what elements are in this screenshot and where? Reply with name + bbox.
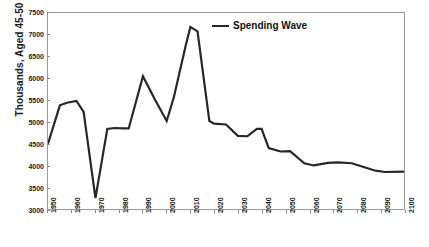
legend-label: Spending Wave — [233, 20, 307, 31]
x-axis-tick-mark — [333, 210, 334, 213]
plot-area — [47, 12, 405, 210]
x-axis-tick-label: 2000 — [169, 197, 176, 213]
x-axis-tick-label: 2040 — [265, 197, 272, 213]
x-axis-tick-label: 1990 — [145, 197, 152, 213]
y-axis-tick-mark — [47, 34, 50, 35]
legend-line-swatch — [212, 25, 229, 27]
spending-wave-line-svg — [48, 13, 404, 209]
y-axis-tick-label: 5500 — [4, 97, 44, 104]
y-axis-tick-label: 4000 — [4, 163, 44, 170]
x-axis-tick-mark — [262, 210, 263, 213]
x-axis-tick-label: 2020 — [217, 197, 224, 213]
x-axis-tick-mark — [405, 210, 406, 213]
x-axis-tick-mark — [381, 210, 382, 213]
legend: Spending Wave — [212, 20, 307, 31]
y-axis-tick-label: 6500 — [4, 53, 44, 60]
x-axis-tick-label: 2100 — [408, 197, 415, 213]
y-axis-tick-mark — [47, 56, 50, 57]
x-axis-tick-mark — [47, 210, 48, 213]
chart-container: Thousands, Aged 45-50 300035004000450050… — [0, 0, 429, 247]
y-axis-tick-label: 5000 — [4, 119, 44, 126]
y-axis-tick-label: 3500 — [4, 185, 44, 192]
x-axis-tick-label: 2060 — [313, 197, 320, 213]
y-axis-tick-label: 7500 — [4, 9, 44, 16]
x-axis-tick-mark — [95, 210, 96, 213]
y-axis-tick-label: 3000 — [4, 207, 44, 214]
spending-wave-line — [48, 27, 404, 198]
x-axis-tick-label: 2050 — [289, 197, 296, 213]
x-axis-tick-label: 1970 — [98, 197, 105, 213]
x-axis-tick-mark — [166, 210, 167, 213]
x-axis-tick-label: 2080 — [360, 197, 367, 213]
x-axis-tick-label: 1950 — [50, 197, 57, 213]
y-axis-tick-mark — [47, 100, 50, 101]
y-axis-tick-mark — [47, 166, 50, 167]
x-axis-tick-mark — [142, 210, 143, 213]
y-axis-tick-mark — [47, 144, 50, 145]
x-axis-tick-label: 1960 — [74, 197, 81, 213]
x-axis-tick-label: 2070 — [336, 197, 343, 213]
x-axis-tick-label: 2090 — [384, 197, 391, 213]
x-axis-tick-label: 1980 — [122, 197, 129, 213]
x-axis-tick-mark — [71, 210, 72, 213]
y-axis-tick-label: 4500 — [4, 141, 44, 148]
y-axis-tick-mark — [47, 12, 50, 13]
figure-caption — [2, 240, 427, 247]
y-axis-tick-label: 6000 — [4, 75, 44, 82]
x-axis-tick-mark — [238, 210, 239, 213]
y-axis-tick-mark — [47, 122, 50, 123]
x-axis-tick-mark — [190, 210, 191, 213]
y-axis-tick-mark — [47, 78, 50, 79]
x-axis-tick-mark — [286, 210, 287, 213]
x-axis-tick-mark — [214, 210, 215, 213]
x-axis-tick-mark — [357, 210, 358, 213]
x-axis-tick-mark — [119, 210, 120, 213]
y-axis-tick-label: 7000 — [4, 31, 44, 38]
x-axis-tick-label: 2010 — [193, 197, 200, 213]
y-axis-tick-mark — [47, 188, 50, 189]
x-axis-tick-mark — [310, 210, 311, 213]
x-axis-tick-label: 2030 — [241, 197, 248, 213]
y-axis-tick-labels: 3000350040004500500055006000650070007500 — [0, 0, 44, 247]
